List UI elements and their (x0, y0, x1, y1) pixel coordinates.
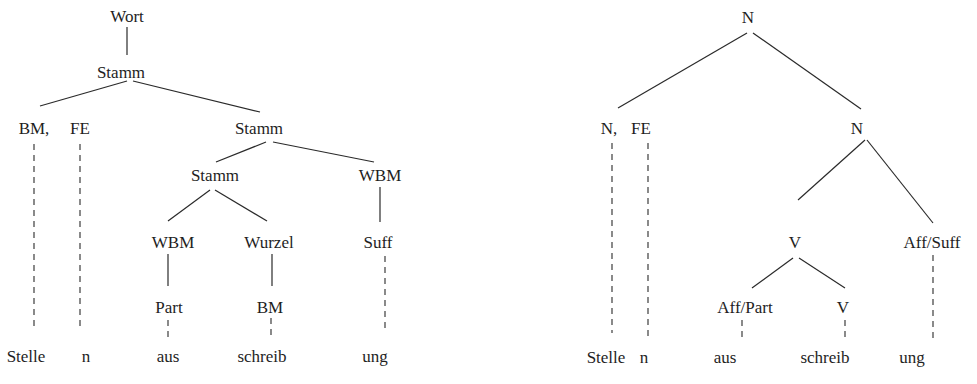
word-aus: aus (157, 348, 180, 365)
edge-n-n-left (618, 33, 747, 108)
edge-stamm-mid-wbm (168, 190, 210, 221)
edge-stamm-right-stamm-mid (216, 142, 266, 162)
node-wbm-left: WBM (152, 234, 195, 251)
edge-v-aff-part (752, 258, 793, 288)
node-wbm-right: WBM (359, 167, 402, 184)
edge-n-n-right (753, 33, 861, 109)
node-wurzel: Wurzel (244, 234, 293, 251)
node-stamm-root: Stamm (97, 64, 145, 81)
node-n-right: N (851, 120, 863, 137)
node-suff: Suff (364, 234, 393, 251)
edge-stamm-mid-wurzel (215, 190, 267, 221)
edge-n-right-v (798, 140, 865, 200)
word-n: n (82, 348, 91, 365)
word-n-right: n (640, 349, 649, 366)
node-n-root: N (742, 9, 754, 26)
edge-stamm-bm (40, 81, 127, 106)
node-v-mid: V (789, 234, 801, 251)
word-stelle: Stelle (7, 348, 46, 365)
node-fe-right: FE (631, 120, 651, 137)
node-aff-suff: Aff/Suff (904, 234, 961, 251)
node-stamm-right: Stamm (235, 120, 283, 137)
node-bm: BM (257, 299, 283, 316)
word-schreib: schreib (237, 348, 286, 365)
node-part: Part (155, 299, 182, 316)
node-aff-part: Aff/Part (717, 299, 772, 316)
node-v-leaf: V (837, 299, 849, 316)
edge-n-right-aff-suff (867, 140, 933, 223)
edge-stamm-stamm-right (133, 81, 260, 112)
tree-edges (0, 0, 977, 384)
node-n-comma: N, (601, 120, 618, 137)
edge-stamm-right-wbm (273, 142, 374, 162)
node-stamm-mid: Stamm (191, 167, 239, 184)
word-stelle-right: Stelle (587, 349, 626, 366)
node-bm-comma: BM, (19, 120, 50, 137)
node-fe: FE (70, 120, 90, 137)
node-wort: Wort (110, 8, 144, 25)
word-aus-right: aus (714, 349, 737, 366)
word-ung: ung (362, 348, 388, 365)
edge-v-v (799, 258, 845, 288)
word-schreib-right: schreib (800, 349, 849, 366)
word-ung-right: ung (899, 349, 925, 366)
